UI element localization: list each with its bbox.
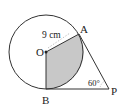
label-A: A [80,23,88,35]
center-point-O [45,51,48,54]
label-P: P [111,85,117,97]
geometry-diagram: O A B P 9 cm 60° [0,0,125,108]
label-O: O [36,46,44,58]
angle-arc-P [100,81,105,89]
angle-label: 60° [88,78,100,88]
diagram-svg: O A B P 9 cm 60° [0,0,125,108]
label-B: B [42,94,49,106]
radius-label: 9 cm [42,30,61,40]
